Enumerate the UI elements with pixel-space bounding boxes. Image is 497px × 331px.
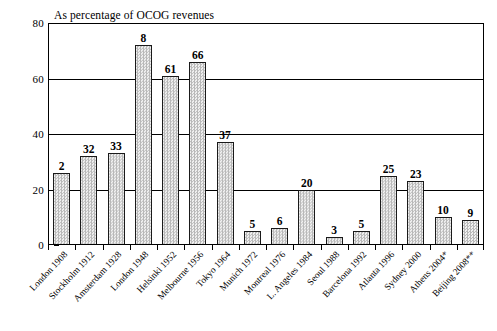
y-axis-tick-label: 60: [14, 73, 44, 84]
plot-area: 2323386166375620352523109: [48, 23, 484, 245]
chart-title: As percentage of OCOG revenues: [54, 9, 214, 22]
y-axis-tick-label: 40: [14, 129, 44, 140]
x-axis-label-slot: L. Angeles 1984: [293, 251, 320, 331]
x-axis-tick-mark: [48, 245, 49, 250]
y-axis-tick-label: 0: [14, 240, 44, 251]
y-axis-tick-label: 80: [14, 18, 44, 29]
x-axis-label-slot: Beijing 2008**: [457, 251, 484, 331]
plot-frame: [48, 23, 484, 245]
y-axis: 806040200: [10, 23, 44, 245]
x-axis-label-slot: Melbourne 1956: [184, 251, 211, 331]
bar-chart: As percentage of OCOG revenues 806040200…: [0, 0, 497, 331]
y-axis-tick-label: 20: [14, 184, 44, 195]
x-axis-labels: London 1908Stockholm 1912Amsterdam 1928L…: [48, 251, 484, 331]
